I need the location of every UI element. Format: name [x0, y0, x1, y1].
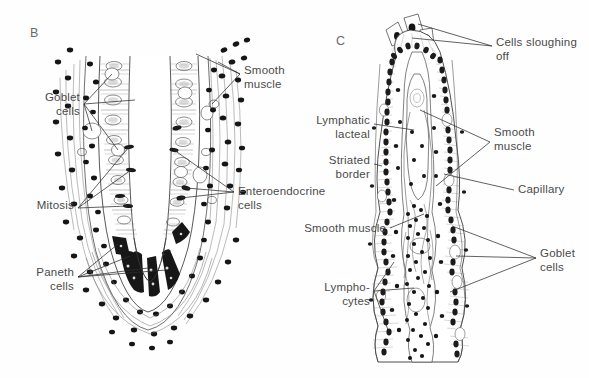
label-goblet-cells-right: Goblet cells: [540, 247, 589, 274]
label-smooth-muscle-left: Smooth muscle: [292, 222, 386, 236]
label-smooth-muscle-right: Smooth muscle: [494, 126, 564, 153]
label-capillary: Capillary: [518, 183, 588, 197]
label-paneth-cells: Paneth cells: [14, 266, 74, 293]
label-lymphocytes: Lympho- cytes: [302, 281, 370, 308]
label-lymphatic-lacteal: Lymphatic lacteal: [302, 114, 370, 141]
panel-letter-b: B: [30, 26, 39, 40]
label-cells-sloughing-off: Cells sloughing off: [496, 36, 589, 63]
label-goblet-cells: Goblet cells: [18, 91, 80, 118]
figure-canvas: B C Goblet cells Smooth muscle Enteroend…: [0, 0, 589, 378]
panel-letter-c: C: [336, 34, 346, 48]
label-striated-border: Striated border: [302, 154, 370, 181]
label-smooth-muscle: Smooth muscle: [244, 64, 314, 91]
label-enteroendocrine-cells: Enteroendocrine cells: [238, 185, 334, 212]
lacteal: [406, 74, 429, 200]
label-mitosis: Mitosis: [14, 199, 74, 213]
panel-c-villus: [368, 14, 469, 362]
